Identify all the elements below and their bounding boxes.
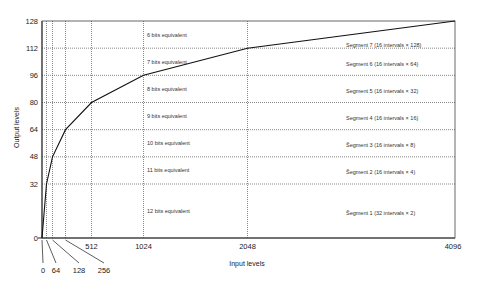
segment-label: Segment 7 (16 intervals × 128) (346, 42, 422, 48)
x-tick-labels: 064128256512102420484096 (41, 240, 461, 275)
y-tick-label: 112 (26, 44, 38, 53)
segment-label: Segment 5 (16 intervals × 32) (346, 88, 418, 94)
segment-label: S̃egment 3 (16 intervals × 8) (346, 142, 415, 148)
y-tick-label: 96 (30, 71, 38, 80)
bits-equivalent-label: 12 bits equivalent (147, 208, 190, 214)
y-tick-label: 0 (34, 234, 38, 243)
x-tick-leader (47, 240, 57, 263)
annotations: 6 bits equivalent7 bits equivalent8 bits… (147, 32, 422, 216)
bits-equivalent-label: 11 bits equivalent (147, 167, 190, 173)
x-tick-label: 4096 (445, 242, 462, 251)
segment-label: S̃egment 1 (32 intervals × 2) (346, 210, 415, 216)
bits-equivalent-label: 8 bits equivalent (147, 86, 187, 92)
x-tick-label: 2048 (239, 242, 256, 251)
bits-equivalent-label: 10 bits equivalent (147, 140, 190, 146)
grid-lines (38, 21, 455, 238)
x-tick-label: 0 (41, 266, 45, 275)
segment-label: Segment 6 (16 intervals × 64) (346, 61, 418, 67)
compander-chart: 6 bits equivalent7 bits equivalent8 bits… (0, 0, 479, 286)
x-tick-label: 128 (73, 266, 86, 275)
x-tick-leader (42, 240, 43, 263)
bits-equivalent-label: 6 bits equivalent (147, 32, 187, 38)
y-tick-label: 128 (25, 17, 38, 26)
x-tick-label: 256 (98, 266, 111, 275)
y-tick-labels: 03248648096112128 (25, 17, 38, 243)
x-tick-label: 1024 (135, 242, 152, 251)
x-tick-leader (53, 240, 80, 263)
segment-label: S̃egment 2 (16 intervals × 4) (346, 169, 415, 175)
y-tick-label: 32 (30, 180, 38, 189)
bits-equivalent-label: 7 bits equivalent (147, 59, 187, 65)
y-axis-label: Output levels (13, 107, 21, 148)
y-tick-label: 64 (30, 125, 38, 134)
x-axis-label: Input levels (229, 260, 265, 268)
x-tick-label: 512 (85, 242, 98, 251)
bits-equivalent-label: 9 bits equivalent (147, 113, 187, 119)
y-tick-label: 48 (30, 152, 38, 161)
segment-label: Segment 4 (16 intervals × 16) (346, 115, 418, 121)
y-tick-label: 80 (30, 98, 38, 107)
x-tick-label: 64 (52, 266, 60, 275)
